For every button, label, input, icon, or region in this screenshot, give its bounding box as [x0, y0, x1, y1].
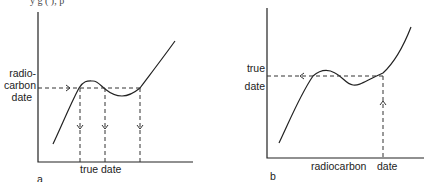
panel-a-ylabel-line-3: date	[12, 91, 33, 103]
panel-b: true date radiocarbon date b	[245, 8, 424, 182]
panel-b-xlabel-part-2: date	[377, 160, 398, 172]
panel-b-label: b	[270, 170, 276, 182]
panel-a-calibration-curve	[53, 41, 175, 144]
panel-a-ylabel-line-1: radio-	[9, 67, 36, 79]
panel-a-axes	[38, 12, 193, 162]
panel-b-ylabel-line-1: true	[247, 62, 265, 74]
panel-b-xlabel-part-1: radiocarbon	[311, 160, 367, 172]
figure: y g ( ), p radio- carbon date true date …	[0, 0, 424, 182]
panel-a: radio- carbon date true date a	[4, 12, 193, 182]
panel-b-ylabel-line-2: date	[245, 80, 266, 92]
panel-a-xlabel: true date	[80, 163, 122, 175]
panel-b-calibration-curve	[279, 27, 411, 143]
clipped-caption-text: y g ( ), p	[30, 0, 64, 7]
panel-a-ylabel-line-2: carbon	[4, 79, 36, 91]
panel-b-axes	[267, 8, 424, 158]
panel-a-label: a	[37, 173, 43, 182]
